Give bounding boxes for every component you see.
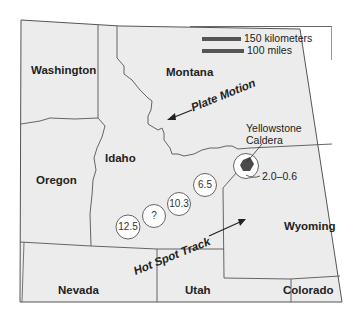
age-label-12-5: 12.5: [116, 221, 140, 233]
state-label-wyoming: Wyoming: [284, 220, 336, 232]
scale-mi-row: 100 miles: [202, 44, 292, 56]
age-label-10-3: 10.3: [167, 198, 191, 210]
scale-legend: 150 kilometers 100 miles: [190, 26, 332, 60]
state-label-washington: Washington: [31, 64, 96, 76]
state-label-idaho: Idaho: [105, 152, 136, 164]
age-label-6-5: 6.5: [193, 179, 217, 191]
scale-mi-label: 100 miles: [247, 44, 292, 56]
scale-bar-mi: [202, 49, 244, 53]
state-label-montana: Montana: [166, 66, 213, 78]
caldera-age-label: 2.0–0.6: [262, 170, 297, 182]
scale-km-row: 150 kilometers: [202, 32, 312, 44]
state-label-colorado: Colorado: [283, 284, 333, 296]
caldera-label-line2: Caldera: [246, 134, 283, 146]
state-label-oregon: Oregon: [36, 174, 77, 186]
state-label-utah: Utah: [185, 284, 211, 296]
state-label-nevada: Nevada: [58, 284, 99, 296]
scale-bar-km: [202, 37, 241, 41]
scale-km-label: 150 kilometers: [244, 32, 312, 44]
age-label-unknown: ?: [142, 210, 166, 222]
caldera-label-line1: Yellowstone: [246, 122, 302, 134]
map-land: [20, 20, 342, 302]
